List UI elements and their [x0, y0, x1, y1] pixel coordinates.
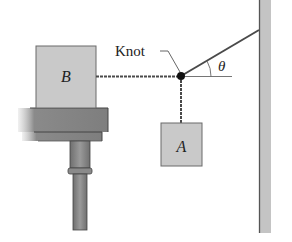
block-b: B — [36, 46, 96, 108]
knot-leader-line — [160, 51, 180, 72]
block-b-label: B — [61, 68, 71, 85]
angle-arc — [207, 61, 211, 77]
table-support — [18, 108, 108, 230]
knot: Knot — [115, 43, 185, 80]
diagram-canvas: B θ Knot A — [0, 0, 292, 242]
block-a: A — [161, 123, 202, 166]
wall — [259, 0, 271, 233]
angle-theta-label: θ — [218, 58, 226, 74]
block-a-label: A — [176, 138, 187, 155]
knot-label: Knot — [115, 43, 146, 59]
